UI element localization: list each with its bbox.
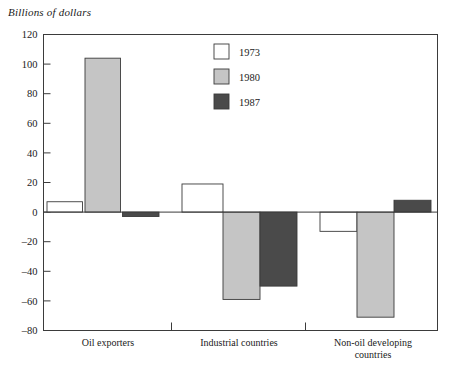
category-label: Non-oil developing [334, 337, 412, 348]
y-axis-tick-label: 80 [27, 88, 38, 99]
bar-1973-2 [182, 184, 223, 212]
bar-1973-1 [47, 202, 83, 212]
category-label: Industrial countries [200, 337, 278, 348]
bar-1980-2 [223, 212, 260, 299]
legend-label-1973: 1973 [239, 47, 260, 58]
y-axis-tick-label: 60 [27, 118, 38, 129]
legend-swatch-1973 [214, 44, 229, 59]
bar-chart-plot: 120100806040200–20–40–60–80 Oil exporter… [0, 0, 455, 370]
legend-label-1987: 1987 [239, 97, 260, 108]
y-axis-tick-label: 20 [27, 177, 38, 188]
category-label-group: Oil exportersIndustrial countriesNon-oil… [82, 337, 412, 361]
y-axis-tick-label: 100 [22, 59, 38, 70]
y-axis-tick-label: 0 [32, 207, 37, 218]
category-separator-group [172, 323, 306, 331]
category-label: Oil exporters [82, 337, 135, 348]
y-axis-tick-label: 40 [27, 148, 38, 159]
bar-1987-1 [123, 212, 160, 216]
legend-swatch-1980 [214, 69, 229, 84]
y-axis-tick-label: –20 [21, 236, 38, 247]
y-axis-tick-label: –40 [21, 266, 38, 277]
bar-1980-1 [85, 58, 121, 212]
category-label: countries [355, 349, 392, 360]
y-axis-tick-label: –80 [21, 325, 38, 336]
legend-label-1980: 1980 [239, 72, 260, 83]
bar-1973-3 [320, 212, 357, 231]
legend-swatch-1987 [214, 94, 229, 109]
chart-legend: 197319801987 [214, 44, 260, 109]
bar-1987-2 [260, 212, 297, 286]
y-axis-tick-label: –60 [21, 296, 38, 307]
y-axis-tick-group [44, 64, 51, 301]
y-axis-tick-label: 120 [22, 29, 38, 40]
bar-1987-3 [394, 200, 431, 212]
bar-1980-3 [357, 212, 394, 317]
chart-container: Billions of dollars 120100806040200–20–4… [0, 0, 455, 370]
y-axis-label-group: 120100806040200–20–40–60–80 [21, 29, 38, 336]
